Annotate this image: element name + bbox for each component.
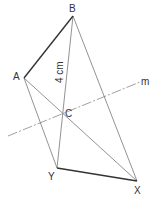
segment-AX — [24, 78, 137, 181]
label-m: m — [141, 76, 149, 87]
segment-BY — [57, 16, 73, 168]
line-m — [8, 82, 140, 136]
label-A: A — [13, 71, 20, 82]
label-B: B — [69, 3, 76, 14]
segment-BX — [73, 16, 137, 181]
label-X: X — [134, 185, 141, 196]
segment-AB — [24, 16, 73, 78]
segment-AY — [24, 78, 57, 168]
measurement-label-4cm: 4 cm — [54, 61, 65, 83]
geometry-diagram: B A C Y X m 4 cm — [0, 0, 156, 198]
label-Y: Y — [48, 171, 55, 182]
label-C: C — [65, 108, 72, 119]
